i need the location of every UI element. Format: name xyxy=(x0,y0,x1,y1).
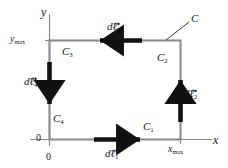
vector-label-dl2: dℓ2 xyxy=(184,88,198,101)
segment-label-C3: C3 xyxy=(62,46,73,59)
vector-dl3-ell: ℓ xyxy=(113,20,118,32)
vector-dl2-ell-group: ℓ xyxy=(190,88,195,99)
origin-label-x-axis: 0 xyxy=(46,152,51,162)
vector-dl2-ell: ℓ xyxy=(190,87,195,99)
segment-label-C4: C4 xyxy=(53,113,64,126)
segment-C4-subscript: 4 xyxy=(60,118,63,125)
vector-dl4-ell-group: ℓ xyxy=(30,76,35,87)
x-max-subscript: max xyxy=(172,148,183,155)
segment-label-C1: C1 xyxy=(143,121,154,134)
vector-dl1-ell: ℓ xyxy=(111,147,116,159)
origin-label-y-axis: 0 xyxy=(36,133,41,143)
vector-dl2-subscript: 2 xyxy=(194,93,197,100)
contour-label-C: C xyxy=(191,13,198,24)
segment-label-C2: C2 xyxy=(157,52,168,65)
segment-C3-subscript: 3 xyxy=(69,51,72,58)
segment-C2-subscript: 2 xyxy=(164,57,167,64)
x-axis-label: x xyxy=(213,134,218,146)
contour-label-leader-line xyxy=(166,22,189,40)
vector-calculus-contour-figure: y x ymax xmax 0 0 C C3 C2 C4 C1 dℓ3 dℓ2 … xyxy=(0,0,228,168)
vector-dl1-ell-group: ℓ xyxy=(111,148,116,159)
segment-C1-subscript: 1 xyxy=(150,126,153,133)
vector-label-dl3: dℓ3 xyxy=(107,21,121,34)
vector-dl3-ell-group: ℓ xyxy=(113,21,118,32)
vector-dl4-ell: ℓ xyxy=(30,75,35,87)
y-max-subscript: max xyxy=(14,38,25,45)
x-max-tick-label: xmax xyxy=(168,144,183,155)
vector-dl1-subscript: 1 xyxy=(115,153,118,160)
vector-label-dl1: dℓ1 xyxy=(105,148,119,161)
vector-label-dl4: dℓ4 xyxy=(24,76,38,89)
y-max-tick-label: ymax xyxy=(10,34,25,45)
vector-dl3-subscript: 3 xyxy=(117,26,120,33)
y-axis-label: y xyxy=(41,6,46,18)
vector-dl4-subscript: 4 xyxy=(34,81,37,88)
